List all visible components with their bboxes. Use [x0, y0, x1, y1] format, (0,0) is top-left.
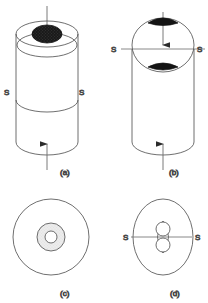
panel-d-upper-nugget-circle [156, 222, 170, 236]
panel-a: S S (a) [4, 6, 84, 177]
panel-d-section-label-left: S [123, 233, 128, 242]
panel-b-caption: (b) [169, 168, 179, 177]
panel-b-nugget-lower [148, 63, 178, 70]
panel-a-section-label-right: S [79, 88, 84, 97]
panel-d-caption: (d) [170, 289, 180, 298]
panel-b: S S (b) [111, 12, 205, 177]
panel-b-section-label-right: S [197, 45, 202, 54]
panel-d: S S (d) [123, 199, 200, 298]
panel-c-inner-circle [45, 231, 57, 243]
panel-c-caption: (c) [60, 289, 70, 298]
panel-a-caption: (a) [60, 168, 70, 177]
figure-container: S S (a) [0, 0, 208, 303]
panel-d-section-label-right: S [195, 233, 200, 242]
panel-a-section-label-left: S [4, 88, 9, 97]
panel-a-mid-section-arc [16, 100, 78, 112]
panel-b-section-label-left: S [111, 45, 116, 54]
panel-a-nugget [32, 25, 62, 43]
technical-figure-svg: S S (a) [0, 0, 208, 303]
panel-d-lower-nugget-circle [156, 238, 170, 252]
panel-c: (c) [13, 199, 89, 298]
